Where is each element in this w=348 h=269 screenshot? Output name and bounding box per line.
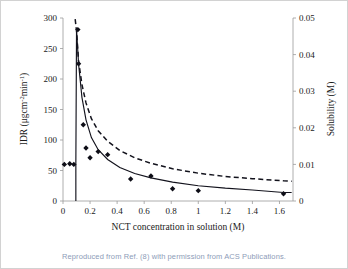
x-tick-label: 0.4 xyxy=(111,206,123,216)
x-tick-label: 0.2 xyxy=(84,206,95,216)
data-point-marker xyxy=(128,176,133,181)
left-axis-title: IDR (μgcm-2min-1) xyxy=(18,73,30,145)
chart-figure: 050100150200250300 00.010.020.030.040.05… xyxy=(0,0,348,269)
left-tick-label: 200 xyxy=(44,74,58,84)
data-point-marker xyxy=(105,152,110,157)
data-point-marker xyxy=(170,186,175,191)
x-tick-label: 0.8 xyxy=(166,206,178,216)
left-tick-label: 250 xyxy=(44,44,58,54)
data-point-marker xyxy=(67,161,72,166)
x-tick-label: 1.6 xyxy=(274,206,286,216)
x-tick-label: 1 xyxy=(196,206,201,216)
x-axis-title: NCT concentration in solution (M) xyxy=(112,222,245,233)
solid-trend-line xyxy=(76,30,292,201)
left-axis-ticks: 050100150200250300 xyxy=(44,13,64,206)
right-tick-label: 0.02 xyxy=(299,123,315,133)
left-tick-label: 0 xyxy=(53,196,58,206)
x-tick-label: 0 xyxy=(61,206,66,216)
data-point-marker xyxy=(196,188,201,193)
left-tick-label: 150 xyxy=(44,105,58,115)
x-tick-label: 1.2 xyxy=(220,206,231,216)
right-tick-label: 0.01 xyxy=(299,160,315,170)
x-tick-label: 0.6 xyxy=(139,206,151,216)
chart-plot-area: 050100150200250300 00.010.020.030.040.05… xyxy=(1,1,348,269)
data-point-marker xyxy=(87,155,92,160)
data-point-marker xyxy=(81,122,86,127)
right-tick-label: 0.04 xyxy=(299,50,315,60)
left-tick-label: 100 xyxy=(44,135,58,145)
left-tick-label: 50 xyxy=(48,166,58,176)
right-axis-title: Solubility (M) xyxy=(326,82,337,137)
right-tick-label: 0 xyxy=(299,196,304,206)
right-axis-ticks: 00.010.020.030.040.05 xyxy=(293,13,315,206)
axes-group xyxy=(63,18,293,201)
x-axis-ticks: 00.20.40.60.811.21.41.6 xyxy=(61,201,286,216)
left-tick-label: 300 xyxy=(44,13,58,23)
right-tick-label: 0.03 xyxy=(299,86,315,96)
data-series-group xyxy=(62,19,292,201)
source-caption: Reproduced from Ref. (8) with permission… xyxy=(1,252,347,261)
data-point-marker xyxy=(62,162,67,167)
right-tick-label: 0.05 xyxy=(299,13,315,23)
data-point-marker xyxy=(83,145,88,150)
x-tick-label: 1.4 xyxy=(247,206,259,216)
